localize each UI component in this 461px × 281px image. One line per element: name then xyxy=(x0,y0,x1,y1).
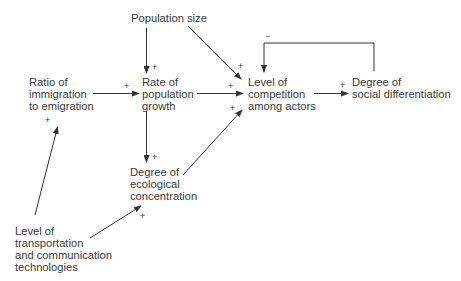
sign-ecological-competition: + xyxy=(230,104,235,113)
node-social-differentiation: Degree of social differentiation xyxy=(352,76,451,100)
edge-popsize-competition xyxy=(188,26,241,79)
sign-transport-ratio: + xyxy=(45,116,50,125)
sign-differentiation-competition: − xyxy=(265,32,270,41)
edge-differentiation-competition xyxy=(264,43,374,72)
node-ecological-concentration: Degree of ecological concentration xyxy=(130,166,197,202)
edge-transport-ratio xyxy=(35,127,58,215)
node-rate-population-growth: Rate of population growth xyxy=(142,76,194,112)
sign-transport-ecological: + xyxy=(140,212,145,221)
sign-rate-competition: + xyxy=(228,82,233,91)
sign-popsize-rate: + xyxy=(152,63,157,72)
node-ratio-immigration: Ratio of immigration to emigration xyxy=(29,76,94,112)
sign-rate-ecological: + xyxy=(152,153,157,162)
sign-competition-differentiation: + xyxy=(340,81,345,90)
node-transport-communication: Level of transportation and communicatio… xyxy=(15,225,112,273)
sign-popsize-competition: + xyxy=(238,62,243,71)
node-level-competition: Level of competition among actors xyxy=(248,76,316,112)
sign-ratio-rate: + xyxy=(124,82,129,91)
node-population-size: Population size xyxy=(131,12,207,24)
